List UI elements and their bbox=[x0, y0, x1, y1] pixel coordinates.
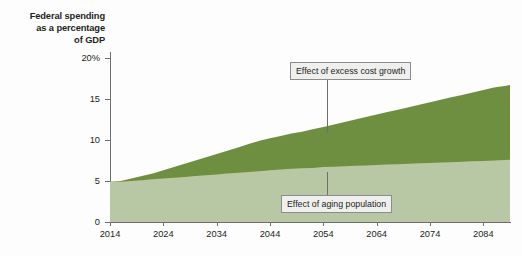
x-tick-2054 bbox=[323, 222, 324, 226]
x-tick-label-2064: 2064 bbox=[347, 229, 407, 239]
y-tick-label-15: 15 bbox=[40, 94, 105, 104]
x-tick-label-2074: 2074 bbox=[400, 229, 460, 239]
x-tick-2014 bbox=[110, 222, 111, 226]
annotation-aging-population: Effect of aging population bbox=[281, 195, 392, 213]
x-tick-2044 bbox=[270, 222, 271, 226]
y-tick-label-5: 5 bbox=[40, 176, 105, 186]
y-tick-label-20: 20% bbox=[40, 53, 105, 63]
axis-title-line-3: of GDP bbox=[8, 34, 105, 46]
page-title: Federal spending as a percentage of GDP bbox=[8, 10, 105, 47]
x-tick-label-2054: 2054 bbox=[293, 229, 353, 239]
x-tick-label-2024: 2024 bbox=[133, 229, 193, 239]
x-tick-label-2034: 2034 bbox=[187, 229, 247, 239]
aging-leader-line bbox=[327, 172, 328, 196]
x-tick-label-2084: 2084 bbox=[453, 229, 513, 239]
y-tick-label-10: 10 bbox=[40, 135, 105, 145]
x-axis-line bbox=[110, 222, 511, 223]
x-tick-label-2044: 2044 bbox=[240, 229, 300, 239]
excess-cost-leader-line bbox=[327, 79, 328, 133]
x-tick-2064 bbox=[377, 222, 378, 226]
x-tick-2074 bbox=[430, 222, 431, 226]
axis-title-line-2: as a percentage bbox=[8, 22, 105, 34]
chart-figure: Federal spending as a percentage of GDP … bbox=[0, 0, 522, 256]
annotation-excess-cost-growth: Effect of excess cost growth bbox=[290, 62, 411, 80]
x-tick-label-2014: 2014 bbox=[80, 229, 140, 239]
x-tick-2034 bbox=[217, 222, 218, 226]
axis-title-line-1: Federal spending bbox=[8, 10, 105, 22]
x-tick-2024 bbox=[163, 222, 164, 226]
x-tick-2084 bbox=[483, 222, 484, 226]
y-tick-label-0: 0 bbox=[40, 217, 105, 227]
